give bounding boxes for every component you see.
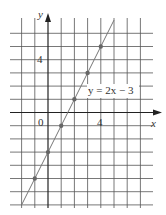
data-point [99,44,103,48]
data-point [85,71,89,75]
y-tick-label-4: 4 [37,53,43,65]
data-point [72,97,76,101]
coordinate-plane: y x 0 4 4 y = 2x − 3 [0,0,166,215]
y-axis-arrow-icon [45,13,51,22]
data-point [46,150,50,154]
equation-label: y = 2x − 3 [88,84,134,96]
graph-figure: y x 0 4 4 y = 2x − 3 [0,0,166,215]
data-point [33,176,37,180]
x-axis-label: x [150,117,156,129]
y-axis-label: y [37,8,43,20]
origin-label: 0 [38,116,44,128]
x-axis-arrow-icon [153,110,162,116]
data-point [59,124,63,128]
x-tick-label-4: 4 [97,116,103,128]
